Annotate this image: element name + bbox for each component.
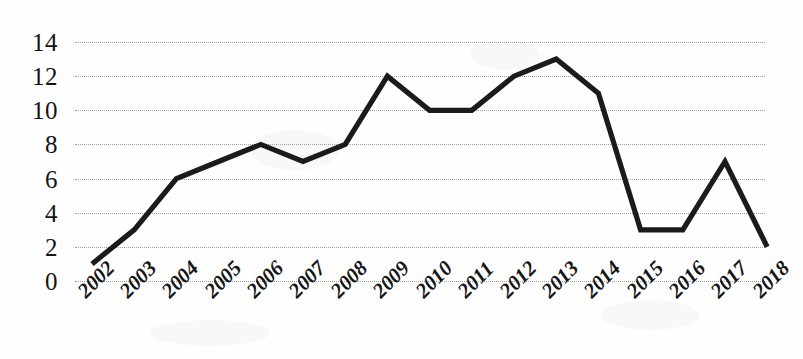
line-chart: 02468101214 2002200320042005200620072008…	[0, 0, 803, 359]
y-tick-label: 6	[45, 166, 58, 191]
plot-area	[75, 42, 765, 281]
y-tick-label: 14	[32, 30, 58, 55]
data-series-line	[92, 59, 767, 264]
y-tick-label: 10	[32, 98, 58, 123]
y-tick-label: 0	[45, 269, 58, 294]
y-tick-label: 2	[45, 234, 58, 259]
y-tick-label: 12	[32, 64, 58, 89]
y-tick-label: 4	[45, 200, 58, 225]
x-axis: 2002200320042005200620072008200920102011…	[75, 287, 775, 359]
data-series-svg	[75, 42, 765, 281]
y-axis: 02468101214	[0, 0, 70, 359]
y-tick-label: 8	[45, 132, 58, 157]
